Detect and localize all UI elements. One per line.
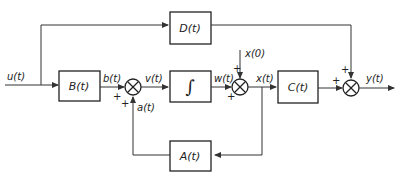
integrator-block: ∫ (170, 71, 211, 102)
svg-text:u(t): u(t) (7, 71, 25, 82)
summing-junction-2 (232, 79, 248, 95)
svg-text:∫: ∫ (185, 76, 195, 97)
svg-text:C(t): C(t) (288, 81, 309, 94)
summing-junction-1 (125, 79, 141, 95)
svg-text:x(0): x(0) (244, 48, 265, 59)
svg-text:b(t): b(t) (103, 73, 121, 84)
svg-text:+: + (121, 98, 129, 109)
block-a: A(t) (170, 141, 211, 171)
svg-text:B(t): B(t) (69, 80, 89, 93)
svg-text:D(t): D(t) (179, 22, 200, 35)
svg-text:+: + (332, 75, 340, 86)
summing-junction-3 (343, 80, 359, 96)
block-c: C(t) (278, 71, 318, 103)
svg-text:A(t): A(t) (179, 150, 200, 163)
svg-text:+: + (341, 64, 349, 75)
svg-text:a(t): a(t) (137, 102, 155, 113)
block-diagram: u(t) D(t) B(t) b(t) + + v(t) ∫ w(t) + x(… (0, 0, 400, 180)
svg-text:w(t): w(t) (214, 73, 234, 84)
block-b: B(t) (59, 71, 100, 101)
svg-text:y(t): y(t) (365, 73, 384, 84)
d-output-wire (211, 25, 351, 78)
input-signal-u: u(t) (5, 71, 58, 85)
feedback-wire (215, 87, 262, 155)
svg-text:v(t): v(t) (145, 73, 163, 84)
svg-text:x(t): x(t) (255, 73, 274, 84)
svg-text:+: + (233, 63, 241, 74)
block-d: D(t) (170, 12, 211, 44)
